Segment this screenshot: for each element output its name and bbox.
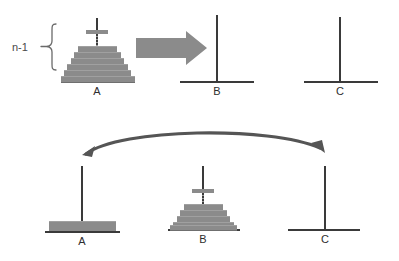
peg-label-a-top: A — [76, 85, 118, 97]
peg-label-b-bottom: B — [182, 233, 224, 245]
peg-base — [45, 231, 120, 233]
peg-base — [180, 81, 254, 83]
peg-rod — [339, 17, 341, 82]
disk — [170, 225, 237, 231]
top-disk — [192, 189, 214, 193]
peg-rod — [81, 166, 83, 229]
peg-label-a-bottom: A — [61, 235, 103, 247]
peg-label-b-top: B — [196, 85, 238, 97]
peg-label-c-bottom: C — [304, 233, 346, 245]
arrow-a-to-c-curved — [82, 133, 325, 157]
peg-rod — [324, 166, 326, 230]
n-minus-1-brace — [41, 24, 56, 70]
top-disk — [86, 30, 108, 34]
peg-base — [304, 81, 378, 83]
peg-base — [288, 229, 360, 231]
n-minus-1-label: n-1 — [12, 41, 28, 53]
peg-label-c-top: C — [319, 85, 361, 97]
hanoi-diagram: n-1 A — [0, 0, 399, 261]
disk — [61, 76, 135, 83]
peg-rod — [216, 15, 218, 82]
arrow-a-to-b — [136, 31, 207, 65]
